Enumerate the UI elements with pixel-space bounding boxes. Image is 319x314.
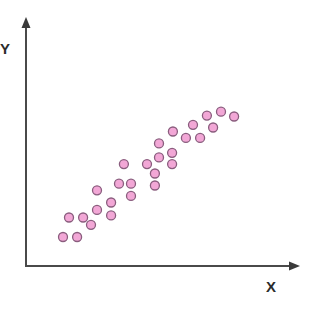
data-point	[230, 112, 239, 121]
data-point	[127, 179, 136, 188]
data-point	[168, 127, 177, 136]
data-point	[168, 160, 177, 169]
data-point	[196, 133, 205, 142]
x-axis	[25, 262, 300, 271]
y-axis	[22, 17, 31, 266]
data-point	[107, 198, 116, 207]
data-point	[217, 107, 226, 116]
y-axis-label: Y	[0, 41, 10, 56]
data-point	[107, 211, 116, 220]
data-point	[127, 191, 136, 200]
x-axis-label: X	[266, 279, 276, 294]
data-point	[202, 111, 211, 120]
data-point	[155, 153, 164, 162]
data-point	[150, 169, 159, 178]
data-point	[168, 148, 177, 157]
data-point	[189, 120, 198, 129]
data-points	[59, 107, 239, 241]
data-point	[150, 181, 159, 190]
data-point	[119, 160, 128, 169]
y-axis-arrow-icon	[22, 17, 31, 28]
data-point	[65, 213, 74, 222]
data-point	[93, 186, 102, 195]
data-point	[115, 179, 124, 188]
data-point	[181, 133, 190, 142]
data-point	[79, 213, 88, 222]
data-point	[87, 220, 96, 229]
data-point	[73, 233, 82, 242]
data-point	[155, 139, 164, 148]
x-axis-arrow-icon	[289, 262, 300, 271]
scatter-chart	[0, 0, 319, 314]
data-point	[143, 160, 152, 169]
data-point	[93, 205, 102, 214]
data-point	[209, 123, 218, 132]
data-point	[59, 233, 68, 242]
